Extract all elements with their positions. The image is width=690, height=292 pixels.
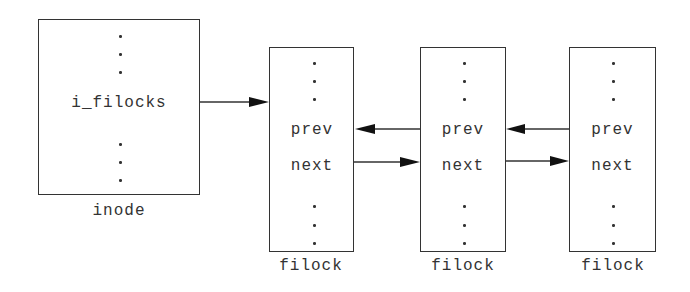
arrowhead-icon bbox=[355, 124, 375, 134]
arrowhead-icon bbox=[550, 156, 569, 166]
arrowhead-icon bbox=[506, 124, 525, 134]
arrowhead-icon bbox=[249, 97, 269, 107]
arrows-layer bbox=[0, 0, 690, 292]
arrowhead-icon bbox=[400, 157, 420, 167]
